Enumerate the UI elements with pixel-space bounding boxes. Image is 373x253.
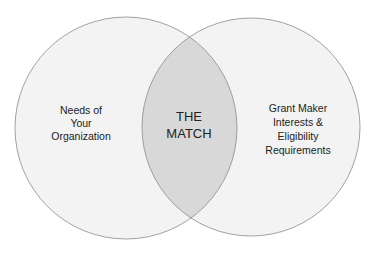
venn-diagram: Needs of Your Organization THE MATCH Gra… (0, 0, 373, 253)
right-label-line: Eligibility (278, 130, 320, 142)
right-label-line: Interests & (273, 116, 323, 128)
left-label-line: Needs of (60, 104, 102, 116)
left-label-line: Your (70, 117, 92, 129)
right-label-line: Grant Maker (269, 102, 328, 114)
right-label-line: Requirements (265, 144, 330, 156)
intersection-label-line: THE (176, 109, 202, 124)
left-label-line: Organization (51, 130, 111, 142)
intersection-label-line: MATCH (166, 126, 211, 141)
